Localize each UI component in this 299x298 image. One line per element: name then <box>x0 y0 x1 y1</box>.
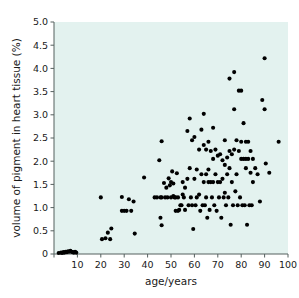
data-point <box>222 195 226 199</box>
x-tick-label: 50 <box>165 259 177 270</box>
data-point <box>155 195 159 199</box>
data-point <box>249 171 253 175</box>
data-point <box>264 161 268 165</box>
y-tick-label: 2.0 <box>33 156 48 167</box>
y-tick-label: 1.5 <box>33 179 48 190</box>
data-point <box>223 191 227 195</box>
data-point <box>203 203 207 207</box>
x-tick-label: 10 <box>71 259 83 270</box>
x-tick-label: 80 <box>235 259 247 270</box>
data-point <box>192 135 196 139</box>
data-point <box>215 209 219 213</box>
data-point <box>238 195 242 199</box>
data-point <box>160 139 164 143</box>
data-point <box>211 126 215 130</box>
plot-area-background <box>54 22 288 254</box>
data-point <box>236 203 240 207</box>
data-point <box>194 203 198 207</box>
data-point <box>129 209 133 213</box>
data-point <box>199 128 203 132</box>
data-point <box>202 143 206 147</box>
data-point <box>211 180 215 184</box>
y-tick-label: 3.0 <box>33 109 48 120</box>
data-point <box>176 195 180 199</box>
x-tick-label: 100 <box>279 259 297 270</box>
data-point <box>230 180 234 184</box>
data-point <box>246 140 250 144</box>
data-point <box>188 116 192 120</box>
data-point <box>100 237 104 241</box>
x-tick-label: 90 <box>259 259 271 270</box>
data-point <box>209 149 213 153</box>
data-point <box>230 152 234 156</box>
data-point <box>220 177 224 181</box>
data-point <box>244 166 248 170</box>
data-point <box>251 157 255 161</box>
data-point <box>224 203 228 207</box>
data-point <box>229 223 233 227</box>
data-point <box>167 176 171 180</box>
data-point <box>106 231 110 235</box>
data-point <box>202 180 206 184</box>
data-point <box>158 216 162 220</box>
data-point <box>133 232 137 236</box>
data-point <box>185 177 189 181</box>
data-point <box>197 148 201 152</box>
data-point <box>212 203 216 207</box>
x-tick-label: 20 <box>95 259 107 270</box>
data-point <box>253 166 257 170</box>
data-point <box>164 186 168 190</box>
data-point <box>231 203 235 207</box>
data-point <box>277 140 281 144</box>
y-tick-label: 3.5 <box>33 86 48 97</box>
data-point <box>208 208 212 212</box>
data-point <box>232 148 236 152</box>
y-axis-title: volume of pigment in heart tissue (%) <box>10 38 22 238</box>
data-point <box>185 129 189 133</box>
data-point <box>175 171 179 175</box>
data-point <box>233 189 237 193</box>
data-point <box>142 175 146 179</box>
data-point <box>232 107 236 111</box>
data-point <box>124 209 128 213</box>
data-point <box>213 148 217 152</box>
plot-canvas: 00.51.01.52.02.53.03.54.04.55.0 10203040… <box>0 0 299 298</box>
data-point <box>190 203 194 207</box>
data-point <box>202 112 206 116</box>
data-point <box>170 169 174 173</box>
data-point <box>191 227 195 231</box>
data-point <box>223 138 227 142</box>
data-point <box>258 200 262 204</box>
data-point <box>183 208 187 212</box>
data-point <box>171 181 175 185</box>
data-point <box>195 168 199 172</box>
data-point <box>204 195 208 199</box>
data-point <box>241 121 245 125</box>
data-point <box>243 203 247 207</box>
data-point <box>251 180 255 184</box>
data-point <box>103 236 107 240</box>
data-point <box>165 195 169 199</box>
data-point <box>189 195 193 199</box>
data-point <box>219 216 223 220</box>
data-point <box>182 195 186 199</box>
data-point <box>157 158 161 162</box>
data-point <box>217 195 221 199</box>
data-point <box>234 172 238 176</box>
data-point <box>120 195 124 199</box>
data-point <box>187 203 191 207</box>
x-tick-label: 70 <box>212 259 224 270</box>
data-point <box>249 149 253 153</box>
data-point <box>239 89 243 93</box>
data-point <box>188 166 192 170</box>
data-point <box>232 70 236 74</box>
data-point <box>198 209 202 213</box>
data-point <box>179 203 183 207</box>
data-point <box>211 157 215 161</box>
data-point <box>267 171 271 175</box>
data-point <box>218 152 222 156</box>
data-point <box>206 168 210 172</box>
data-point <box>199 172 203 176</box>
data-point <box>237 149 241 153</box>
data-point <box>99 195 103 199</box>
